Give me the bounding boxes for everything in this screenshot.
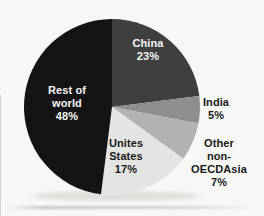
scan-artifact-bottom-line [6,206,258,209]
slice-label-china: China 23% [132,37,163,63]
pie-chart-figure: China 23% Rest of world 48% India 5% Oth… [0,0,264,216]
pie-slice-china [112,19,199,107]
scan-artifact-left-line [0,95,1,216]
slice-label-other-non-oecd-asia: Other non- OECDAsia 7% [191,137,247,189]
slice-label-rest-of-world: Rest of world 48% [48,84,86,123]
slice-label-india: India 5% [203,96,229,122]
slice-label-unites-states: Unites States 17% [109,137,143,176]
